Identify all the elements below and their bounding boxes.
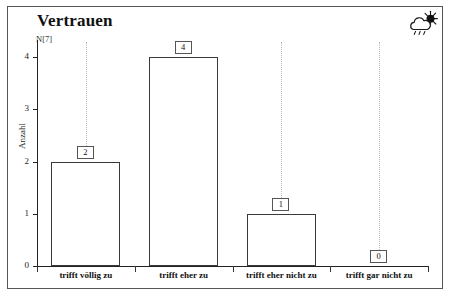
bar-value-label: 1 (272, 198, 289, 211)
y-axis-line (37, 40, 38, 267)
grid-line (281, 42, 282, 204)
y-axis-tick-label: 1 (7, 209, 29, 218)
x-axis-category-label: trifft eher zu (135, 270, 233, 280)
x-axis-tick-mark (428, 266, 429, 272)
sun-behind-cloud-icon (408, 9, 440, 37)
sample-size-label: N[7] (36, 34, 52, 44)
y-axis-tick-mark (33, 109, 37, 110)
y-axis-tick-label: 3 (7, 104, 29, 113)
bar-value-label: 4 (175, 41, 192, 54)
y-axis-tick-label: 0 (7, 261, 29, 270)
y-axis-tick-label: 2 (7, 157, 29, 166)
y-axis-tick-mark (33, 162, 37, 163)
page-title: Vertrauen (37, 11, 113, 31)
bar-value-label: 2 (77, 146, 94, 159)
y-axis-tick-label: 4 (7, 52, 29, 61)
x-axis-category-label: trifft gar nicht zu (330, 270, 428, 280)
x-axis-category-label: trifft völlig zu (37, 270, 135, 280)
y-axis-tick-mark (33, 214, 37, 215)
bar-value-label: 0 (370, 250, 387, 263)
chart-page: Vertrauen N[7] Anzahl 01234 2410 trifft … (0, 0, 450, 301)
bar (51, 162, 120, 267)
y-axis-tick-mark (33, 57, 37, 58)
grid-line (379, 42, 380, 256)
grid-line (86, 42, 87, 152)
bar (149, 57, 218, 266)
bar (247, 214, 316, 266)
x-axis-category-label: trifft eher nicht zu (233, 270, 331, 280)
